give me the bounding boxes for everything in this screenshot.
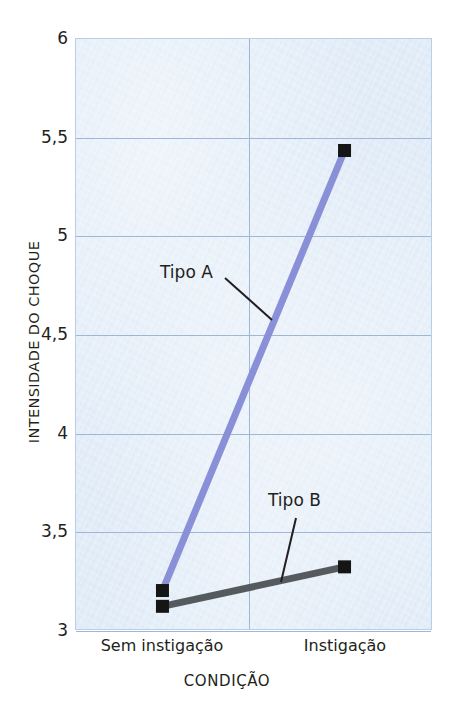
gridline-y-5-5 [76,138,431,139]
chart-figure: 65,554,543,53 INTENSIDADE DO CHOQUE Sem … [0,0,454,717]
annotation-tipo-b: Tipo B [268,490,321,510]
y-axis-title: INTENSIDADE DO CHOQUE [26,212,42,472]
gridline-y-4 [76,434,431,435]
x-axis-title: CONDIÇÃO [0,672,454,690]
y-tick-5-5: 5,5 [0,127,68,147]
y-tick-6: 6 [0,28,68,48]
y-tick-3: 3 [0,620,68,640]
gridline-y-4-5 [76,335,431,336]
x-axis-tick-label-sem-instigacao: Sem instigação [101,636,224,655]
plot-area [75,38,432,630]
gridline-y-3 [76,631,431,632]
x-axis-tick-label-instigacao: Instigação [304,636,386,655]
paper-texture [76,39,431,629]
annotation-tipo-a: Tipo A [160,262,213,282]
y-tick-3-5: 3,5 [0,521,68,541]
vertical-gridline [249,39,250,629]
gridline-y-5 [76,236,431,237]
gridline-y-3-5 [76,532,431,533]
